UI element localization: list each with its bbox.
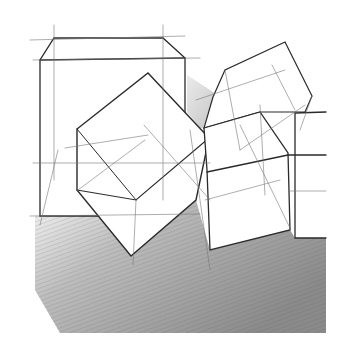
pencil-sketch — [0, 0, 347, 356]
far-right-block — [288, 112, 326, 238]
